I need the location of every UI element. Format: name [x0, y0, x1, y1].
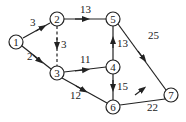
weight-3-6: 12 [70, 89, 81, 101]
node-6: 6 [106, 100, 120, 114]
node-5-label: 5 [110, 13, 116, 25]
node-2-label: 2 [54, 13, 60, 25]
weight-4-5: 13 [117, 37, 129, 49]
weight-6-7: 22 [147, 101, 158, 113]
node-1-label: 1 [13, 36, 19, 48]
node-4: 4 [106, 60, 120, 74]
node-1: 1 [9, 35, 23, 49]
edge-1-2 [23, 23, 50, 38]
edge-3-6 [62, 78, 107, 103]
edge-3-4 [64, 67, 106, 72]
node-4-label: 4 [110, 61, 116, 73]
node-3: 3 [50, 66, 64, 80]
node-7: 7 [164, 88, 178, 102]
weight-3-4: 11 [80, 53, 91, 65]
weight-1-3: 2 [27, 50, 33, 62]
weight-5-7: 25 [148, 29, 160, 41]
weight-1-2: 3 [30, 16, 36, 28]
node-6-label: 6 [110, 101, 116, 113]
node-7-label: 7 [168, 89, 174, 101]
node-5: 5 [106, 12, 120, 26]
network-diagram: 3 2 13 3 11 12 13 15 25 22 1 2 3 4 5 6 7 [0, 0, 186, 122]
node-2: 2 [50, 12, 64, 26]
node-3-label: 3 [54, 67, 60, 79]
weight-4-6: 15 [117, 80, 129, 92]
weight-2-3: 3 [61, 38, 67, 50]
weight-2-5: 13 [80, 3, 92, 15]
